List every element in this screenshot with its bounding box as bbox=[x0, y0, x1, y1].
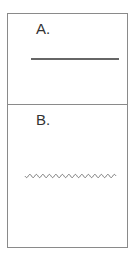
straight-line-icon bbox=[8, 14, 127, 104]
panel-b: B. bbox=[8, 105, 127, 247]
wavy-line-icon bbox=[8, 105, 127, 247]
panel-a: A. bbox=[8, 14, 127, 105]
diagram-frame: A. B. bbox=[7, 13, 128, 248]
